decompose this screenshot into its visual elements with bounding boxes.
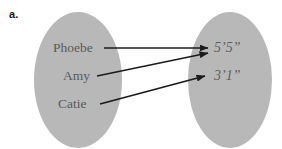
domain-item-phoebe: Phoebe — [53, 41, 93, 55]
range-item-5ft5in: 5’5” — [214, 41, 240, 55]
range-item-3ft1in: 3’1” — [214, 69, 240, 83]
domain-item-amy: Amy — [63, 69, 90, 83]
mapping-diagram-figure: a. Phoebe Amy Catie 5’5” 3’1” — [0, 0, 282, 149]
domain-item-catie: Catie — [58, 97, 87, 111]
